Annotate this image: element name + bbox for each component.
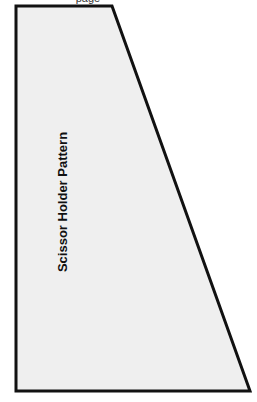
clipped-header-text: page <box>76 0 100 4</box>
pattern-diagram: page Scissor Holder Pattern <box>0 0 257 402</box>
pattern-piece <box>16 6 250 391</box>
pattern-label: Scissor Holder Pattern <box>55 132 70 272</box>
